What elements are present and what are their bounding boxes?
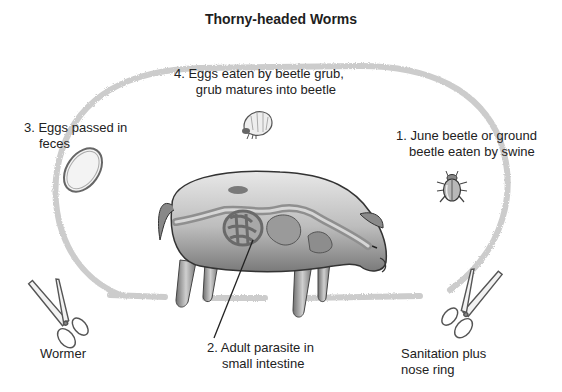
- control-wormer-label: Wormer: [40, 346, 86, 362]
- beetle-icon: [437, 171, 467, 202]
- stage-2-line1: 2. Adult parasite in: [207, 340, 314, 355]
- control-sanitation-line1: Sanitation plus: [401, 346, 486, 361]
- small-intestine: [224, 211, 262, 245]
- stage-2-line2: small intestine: [207, 356, 314, 372]
- stage-3-line1: 3. Eggs passed in: [24, 120, 127, 135]
- control-wormer-line1: Wormer: [40, 346, 86, 361]
- control-sanitation-label: Sanitation plus nose ring: [401, 346, 486, 378]
- lifecycle-artwork: [0, 0, 562, 392]
- stage-1-line1: 1. June beetle or ground: [396, 128, 537, 143]
- stage-4-label: 4. Eggs eaten by beetle grub, grub matur…: [174, 66, 344, 98]
- scissors-icon-wormer: [19, 267, 98, 351]
- stage-1-line2: beetle eaten by swine: [396, 144, 537, 160]
- beetle-grub-icon: [242, 112, 272, 139]
- control-sanitation-line2: nose ring: [401, 362, 486, 378]
- stage-4-line1: 4. Eggs eaten by beetle grub,: [174, 66, 344, 81]
- scissors-icon-sanitation: [432, 257, 511, 341]
- diagram-title: Thorny-headed Worms: [0, 11, 562, 27]
- stage-3-label: 3. Eggs passed in feces: [24, 120, 127, 152]
- stage-1-label: 1. June beetle or ground beetle eaten by…: [396, 128, 537, 160]
- stage-3-line2: feces: [24, 136, 127, 152]
- stage-4-line2: grub matures into beetle: [174, 82, 344, 98]
- stage-2-label: 2. Adult parasite in small intestine: [207, 340, 314, 372]
